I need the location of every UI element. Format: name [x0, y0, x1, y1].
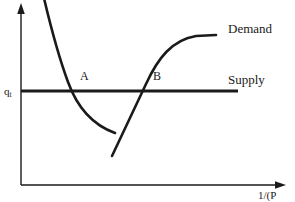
- supply-demand-figure: Demand Supply A B qt 1/(P: [0, 0, 295, 202]
- demand-curve: [43, 0, 115, 133]
- x-axis: [21, 181, 286, 189]
- point-a-label: A: [80, 70, 89, 82]
- y-axis: [17, 3, 25, 185]
- y-axis-label: qt: [4, 86, 12, 97]
- y-axis-label-main: q: [4, 85, 10, 97]
- rising-curve: [112, 35, 216, 156]
- x-axis-arrow-icon: [275, 181, 286, 189]
- point-b-label: B: [153, 70, 161, 82]
- x-axis-label: 1/(P: [258, 190, 276, 201]
- demand-label: Demand: [228, 22, 272, 35]
- supply-label: Supply: [228, 73, 265, 86]
- y-axis-arrow-icon: [17, 3, 25, 14]
- y-axis-label-subscript: t: [10, 90, 12, 99]
